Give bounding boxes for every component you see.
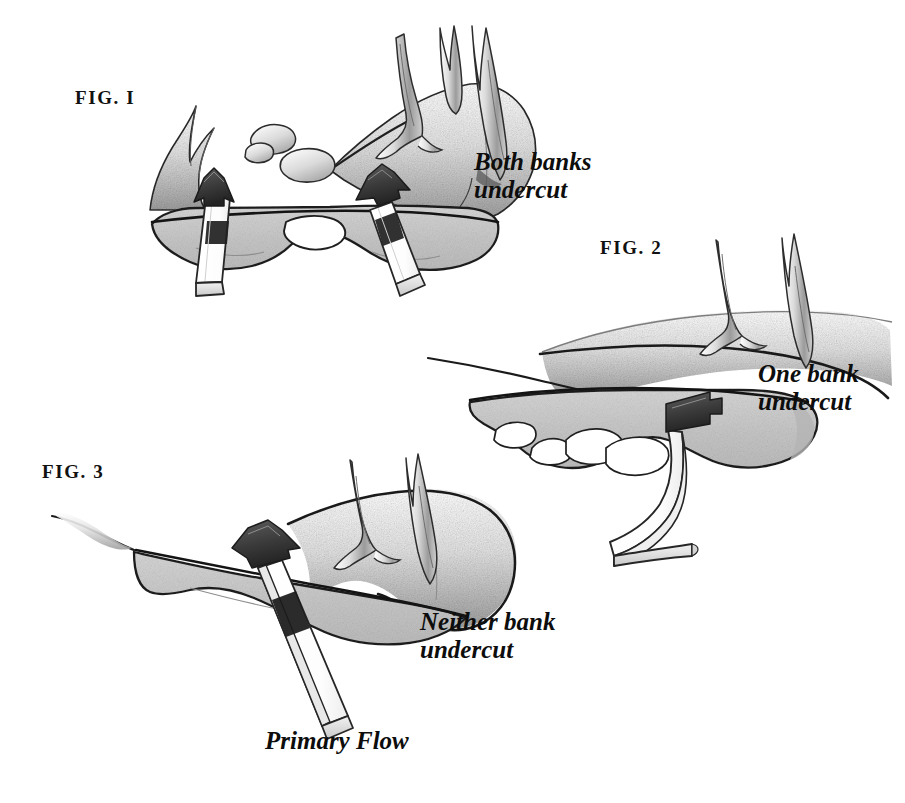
fig3-left-shoreline <box>52 512 134 550</box>
figure-1-callout: Both banks undercut <box>474 148 591 204</box>
illustration-plate: FIG. I FIG. 2 FIG. 3 Both banks undercut… <box>0 0 905 803</box>
figure-2-label: FIG. 2 <box>600 238 662 257</box>
figure-3-callout: Neither bank undercut <box>420 608 555 664</box>
figure-2-callout: One bank undercut <box>758 360 859 416</box>
figure-3-label: FIG. 3 <box>42 462 104 481</box>
fig1-flow-ribbon-left <box>190 168 234 296</box>
figure-1-label: FIG. I <box>75 88 135 107</box>
fig1-rocks <box>245 124 335 182</box>
figure-3-drawing <box>52 454 516 739</box>
primary-flow-caption: Primary Flow <box>265 727 409 755</box>
